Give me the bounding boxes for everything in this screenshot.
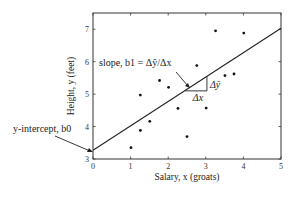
data-point <box>148 120 151 123</box>
delta-y-label: Δŷ <box>209 79 221 90</box>
data-point <box>139 129 142 132</box>
data-point <box>242 32 245 35</box>
regression-line <box>93 28 281 150</box>
x-tick-label: 2 <box>166 162 170 171</box>
data-point <box>130 146 133 149</box>
data-point <box>158 79 161 82</box>
data-point <box>167 86 170 89</box>
data-point <box>195 64 198 67</box>
data-point <box>205 107 208 110</box>
x-tick-label: 1 <box>129 162 133 171</box>
data-point <box>186 135 189 138</box>
y-tick-label: 7 <box>85 25 89 34</box>
intercept-arrow <box>55 136 90 151</box>
delta-x-label: Δx <box>192 92 204 103</box>
y-axis-title: Height, y (feet) <box>66 57 77 115</box>
intercept-annotation: y-intercept, b0 <box>13 123 71 134</box>
x-tick-label: 3 <box>204 162 208 171</box>
x-tick-label: 4 <box>241 162 245 171</box>
slope-annotation: slope, b1 = Δŷ/Δx <box>99 57 171 68</box>
y-tick-label: 6 <box>85 58 89 67</box>
y-tick-label: 5 <box>85 90 89 99</box>
data-point <box>139 94 142 97</box>
x-tick-label: 0 <box>91 162 95 171</box>
data-point <box>214 29 217 32</box>
x-axis-title: Salary, x (groats) <box>154 172 219 183</box>
y-tick-label: 4 <box>85 123 89 132</box>
data-point <box>177 107 180 110</box>
y-tick-label: 3 <box>85 155 89 164</box>
data-point <box>233 73 236 76</box>
y-axis-ticks: 34567 <box>85 25 281 164</box>
scatter-chart: 012345 34567 Δx Δŷ slope, b1 = Δŷ/Δx y-i… <box>0 0 294 199</box>
x-tick-label: 5 <box>279 162 283 171</box>
slope-arrow <box>176 72 188 86</box>
data-point <box>224 74 227 77</box>
x-axis-ticks: 012345 <box>91 13 283 171</box>
